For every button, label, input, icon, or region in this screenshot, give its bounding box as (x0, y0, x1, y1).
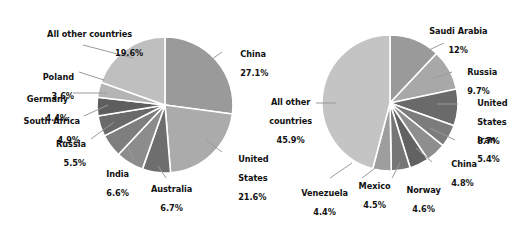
left-label-china-value: 27.1% (240, 68, 268, 78)
right-label-venezuela-value: 4.4% (313, 207, 336, 217)
left-label-south-africa-name: South Africa (24, 116, 80, 126)
left-label-all-other-countries: All other countries 19.6% (14, 20, 154, 68)
left-label-russia: Russia 5.5% (14, 130, 86, 178)
right-label-mexico-name: Mexico (359, 181, 391, 191)
right-label-venezuela: Venezuela 4.4% (288, 179, 350, 226)
right-label-china-value: 4.8% (451, 178, 474, 188)
right-label-all-other-countries-name1: All other (271, 97, 310, 107)
left-label-china: China 27.1% (229, 40, 289, 88)
left-label-germany-name: Germany (27, 94, 68, 104)
right-label-all-other-countries-value: 45.9% (277, 135, 305, 145)
left-label-india-value: 6.6% (106, 188, 129, 198)
right-label-venezuela-name: Venezuela (301, 188, 348, 198)
left-label-russia-name: Russia (56, 139, 86, 149)
left-label-all-other-countries-value: 19.6% (25, 49, 165, 59)
right-label-united-states-name1: United (477, 98, 507, 108)
right-label-mexico-value: 4.5% (363, 200, 386, 210)
left-label-india-name: India (106, 169, 129, 179)
right-label-iran-name: Iran (477, 135, 495, 145)
right-label-mexico: Mexico 4.5% (344, 172, 394, 220)
left-label-australia-name: Australia (151, 184, 192, 194)
left-label-china-name: China (240, 49, 266, 59)
right-label-china-name: China (451, 159, 477, 169)
left-label-poland-name: Poland (43, 72, 74, 82)
right-label-norway: Norway 4.6% (390, 176, 446, 224)
right-label-all-other-countries-name2: countries (269, 116, 312, 126)
left-label-australia-value: 6.7% (160, 203, 183, 213)
right-label-all-other-countries: All other countries 45.9% (254, 88, 316, 155)
right-label-saudi-arabia-value: 12% (429, 46, 505, 56)
left-label-russia-value: 5.5% (63, 158, 86, 168)
left-label-australia: Australia 6.7% (130, 175, 202, 223)
right-label-russia-name: Russia (467, 67, 497, 77)
right-label-norway-value: 4.6% (412, 204, 435, 214)
left-label-india: India 6.6% (91, 160, 133, 208)
right-label-china: China 4.8% (440, 150, 490, 198)
left-label-united-states-name2: States (238, 173, 267, 183)
left-label-united-states-value: 21.6% (238, 192, 266, 202)
left-label-all-other-countries-name: All other countries (47, 29, 132, 39)
pie-charts-figure: All other countries 19.6% Poland 3.6% Ge… (0, 0, 516, 226)
right-label-norway-name: Norway (406, 185, 440, 195)
right-label-saudi-arabia-name: Saudi Arabia (429, 26, 487, 36)
